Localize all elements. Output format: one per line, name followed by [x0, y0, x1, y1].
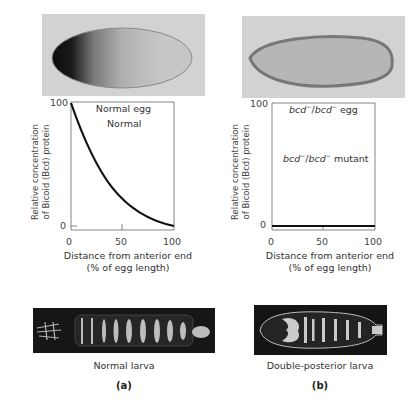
- plot-a-x-tick-50: 50: [115, 236, 127, 247]
- plot-b-y-tick-0: 0: [260, 219, 266, 230]
- mutant-egg-photo: [242, 16, 405, 98]
- plot-b-x-tick-0: 0: [268, 236, 274, 247]
- egg-image-icon: [42, 14, 205, 96]
- plot-b-y-tick-100: 100: [250, 98, 268, 109]
- larva-image-icon: [33, 308, 215, 353]
- normal-larva-photo: [33, 308, 215, 353]
- plot-a-x-tick-100: 100: [163, 236, 181, 247]
- plot-a-label: Normal: [107, 118, 141, 129]
- double-posterior-larva-caption: Double-posterior larva: [240, 360, 400, 371]
- plot-b-x-tick-100: 100: [364, 236, 382, 247]
- plot-a-y-axis-label: Relative concentration of Bicoid (Bcd) p…: [30, 112, 54, 232]
- plot-b-x-axis-label: Distance from anterior end (% of egg len…: [255, 250, 405, 274]
- larva-image-icon: [254, 305, 387, 355]
- panel-b-label: (b): [240, 380, 400, 391]
- plot-a-x-axis-label: Distance from anterior end (% of egg len…: [53, 250, 203, 274]
- panel-a-label: (a): [33, 380, 215, 391]
- plot-b-label: bcd−/bcd− mutant: [283, 152, 368, 164]
- plot-b-chart: [268, 100, 380, 232]
- normal-egg-photo: [42, 14, 205, 96]
- plot-b-x-tick-50: 50: [316, 236, 328, 247]
- normal-larva-caption: Normal larva: [33, 360, 215, 371]
- plot-a-x-tick-0: 0: [66, 236, 72, 247]
- plot-b-y-axis-label: Relative concentration of Bicoid (Bcd) p…: [230, 112, 254, 232]
- egg-image-icon: [242, 16, 405, 98]
- double-posterior-larva-photo: [254, 305, 387, 355]
